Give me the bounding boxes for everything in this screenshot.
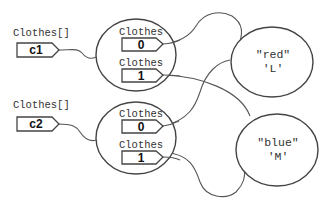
link-a1-0-to-red [163, 13, 242, 44]
array-object-1[interactable]: Clothes 0 Clothes 1 [96, 19, 176, 91]
element-type-label: Clothes [119, 26, 163, 38]
clothes-object-red[interactable]: "red" 'L' [231, 27, 313, 97]
link-a2-1-to-blue [163, 153, 245, 197]
variable-c1[interactable]: c1 [17, 43, 59, 57]
slot-index: 0 [138, 38, 145, 52]
element-type-label: Clothes [119, 57, 163, 69]
variable-c2[interactable]: c2 [17, 117, 59, 131]
variable-name: c2 [29, 117, 43, 131]
object-color: "blue" [257, 136, 298, 149]
var-type-label: Clothes[] [13, 27, 70, 39]
element-type-label: Clothes [119, 139, 163, 151]
object-size: 'L' [263, 62, 284, 75]
slot-index: 0 [138, 120, 145, 134]
array-object-2[interactable]: Clothes 0 Clothes 1 [96, 102, 176, 174]
link-c1-to-array1 [58, 50, 96, 59]
clothes-object-blue[interactable]: "blue" 'M' [236, 114, 318, 186]
variable-name: c1 [29, 43, 43, 57]
link-c2-to-array2 [58, 124, 96, 141]
slot-index: 1 [138, 151, 145, 165]
object-size: 'M' [268, 150, 289, 163]
element-type-label: Clothes [119, 108, 163, 120]
var-type-label: Clothes[] [13, 99, 70, 111]
slot-index: 1 [138, 69, 145, 83]
object-color: "red" [256, 48, 291, 61]
